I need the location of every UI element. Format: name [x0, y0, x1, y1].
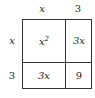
cell-3x-top: 3x [66, 35, 92, 47]
area-grid: x2 3x 3x 9 [22, 19, 92, 89]
cell-3x-bottom: 3x [23, 70, 65, 82]
cell-x-squared: x2 [23, 33, 65, 48]
row-header-3: 3 [4, 70, 20, 82]
cell-9: 9 [66, 70, 92, 82]
column-header-x: x [32, 3, 52, 15]
column-header-3: 3 [68, 3, 88, 15]
row-header-x: x [4, 35, 20, 47]
horizontal-divider [23, 62, 91, 63]
